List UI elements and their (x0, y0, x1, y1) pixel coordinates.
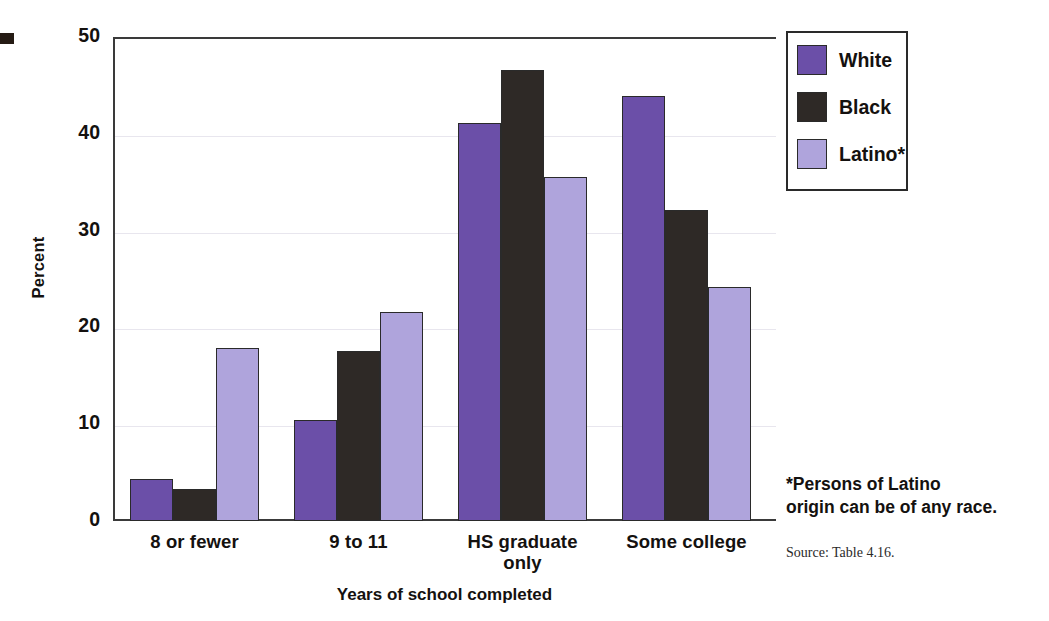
footnote-line-1: *Persons of Latino (786, 473, 1041, 496)
y-tick-label-20: 20 (44, 314, 100, 337)
legend-item-black[interactable]: Black (797, 92, 891, 122)
legend-swatch-icon (797, 92, 827, 122)
x-group-label-3: Some college (592, 532, 782, 553)
footnote-line-2: origin can be of any race. (786, 496, 1041, 519)
bar-white-group-0 (130, 479, 173, 521)
y-tick-label-50: 50 (44, 24, 100, 47)
x-group-label-1: 9 to 11 (264, 532, 454, 553)
bar-white-group-1 (294, 420, 337, 521)
source-note: Source: Table 4.16. (786, 545, 1041, 561)
bar-latino-group-1 (380, 312, 423, 521)
bar-black-group-2 (501, 70, 544, 521)
x-group-label-2-line-1: only (428, 553, 618, 574)
x-group-label-0-line-0: 8 or fewer (100, 532, 290, 553)
x-axis-title: Years of school completed (113, 585, 776, 605)
x-group-label-2: HS graduateonly (428, 532, 618, 573)
y-tick-label-10: 10 (44, 411, 100, 434)
bar-black-group-3 (665, 210, 708, 521)
bar-latino-group-2 (544, 177, 587, 521)
y-tick-label-0: 0 (44, 508, 100, 531)
legend-label: Latino* (839, 143, 905, 166)
bar-white-group-3 (622, 96, 665, 521)
x-group-label-3-line-0: Some college (592, 532, 782, 553)
bar-black-group-1 (337, 351, 380, 521)
legend-swatch-icon (797, 139, 827, 169)
bars-layer (113, 37, 776, 521)
bar-latino-group-0 (216, 348, 259, 521)
x-group-label-2-line-0: HS graduate (428, 532, 618, 553)
latino-footnote: *Persons of Latino origin can be of any … (786, 473, 1041, 519)
bar-black-group-0 (173, 489, 216, 521)
legend-label: White (839, 49, 892, 72)
legend-item-latino[interactable]: Latino* (797, 139, 905, 169)
bar-white-group-2 (458, 123, 501, 521)
legend-item-white[interactable]: White (797, 45, 892, 75)
x-group-label-0: 8 or fewer (100, 532, 290, 553)
y-tick-label-30: 30 (44, 218, 100, 241)
legend-swatch-icon (797, 45, 827, 75)
page-edge-mark (0, 33, 14, 44)
bar-latino-group-3 (708, 287, 751, 521)
bar-chart-figure: Percent 01020304050 8 or fewer9 to 11HS … (0, 0, 1049, 621)
chart-legend: WhiteBlackLatino* (786, 31, 908, 191)
y-tick-label-40: 40 (44, 121, 100, 144)
legend-label: Black (839, 96, 891, 119)
x-group-label-1-line-0: 9 to 11 (264, 532, 454, 553)
